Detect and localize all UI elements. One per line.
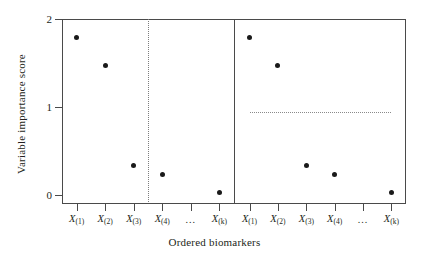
x-tick-mark [219,204,220,211]
data-point [74,35,79,40]
x-tick-label: X(4) [155,213,170,224]
x-tick-label: X(3) [126,213,141,224]
data-point [332,172,337,177]
data-point [304,163,309,168]
y-axis-title: Variable importance score [15,19,27,209]
y-tick-mark-0 [55,195,62,196]
x-tick-mark [335,204,336,211]
y-tick-mark-2 [55,19,62,20]
x-tick-label: X(1) [69,213,84,224]
x-tick-label: X(2) [270,213,285,224]
y-tick-label-0: 0 [38,190,52,201]
x-tick-label: X(4) [327,213,342,224]
x-tick-label: ... [358,214,369,225]
y-tick-label-1: 1 [38,102,52,113]
x-tick-label: X(1) [242,213,257,224]
x-tick-mark [191,204,192,211]
y-tick-mark-1 [55,107,62,108]
left-panel [62,19,234,204]
data-point [389,190,394,195]
data-point [131,163,136,168]
x-tick-label: X(2) [98,213,113,224]
data-point [247,35,252,40]
x-tick-mark [363,204,364,211]
figure-scatter-variable-importance: Variable importance score 2 1 0 X(1)X(2)… [0,0,429,260]
x-tick-mark [391,204,392,211]
data-point [160,172,165,177]
x-tick-label: ... [186,214,197,225]
x-tick-mark [278,204,279,211]
data-point [103,63,108,68]
data-point [275,63,280,68]
x-tick-label: X(k) [384,213,399,224]
right-panel [235,19,406,204]
x-tick-mark [250,204,251,211]
x-axis-title: Ordered biomarkers [0,236,429,248]
x-tick-mark [105,204,106,211]
x-tick-mark [134,204,135,211]
threshold-line-horizontal [250,112,392,113]
y-tick-label-2: 2 [38,14,52,25]
x-tick-mark [77,204,78,211]
x-tick-label: X(3) [299,213,314,224]
x-axis-spine [62,203,406,204]
x-tick-mark [162,204,163,211]
data-point [217,190,222,195]
x-tick-mark [306,204,307,211]
cutoff-line-vertical [148,19,149,204]
x-tick-label: X(k) [212,213,227,224]
